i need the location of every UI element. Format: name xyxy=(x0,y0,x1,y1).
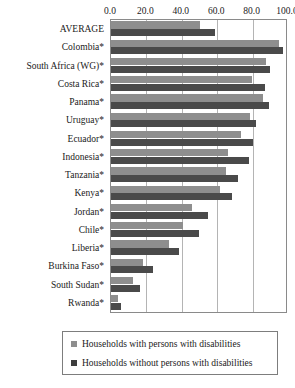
legend-label: Households without persons with disabili… xyxy=(82,357,252,369)
bar xyxy=(111,212,208,219)
bar xyxy=(111,29,215,36)
category-label: Indonesia* xyxy=(62,151,104,162)
x-tick-label: 60.0 xyxy=(208,5,225,18)
bar xyxy=(111,102,269,109)
category-label: Colombia* xyxy=(62,42,104,53)
bar xyxy=(111,230,199,237)
bar xyxy=(111,113,250,120)
bar xyxy=(111,222,183,229)
bar xyxy=(111,84,265,91)
bar xyxy=(111,157,249,164)
bar xyxy=(111,120,256,127)
bar xyxy=(111,58,266,65)
x-tick-label: 100.0 xyxy=(276,5,295,18)
x-tick-label: 80.0 xyxy=(243,5,260,18)
bar xyxy=(111,186,220,193)
bar xyxy=(111,295,118,302)
bar xyxy=(111,167,226,174)
category-label: Rwanda* xyxy=(68,297,104,308)
bar xyxy=(111,277,133,284)
legend-label: Households with persons with disabilitie… xyxy=(82,338,240,350)
category-label: South Sudan* xyxy=(51,279,104,290)
legend-item-with-disabilities: Households with persons with disabilitie… xyxy=(71,337,240,351)
category-label: Costa Rica* xyxy=(58,78,104,89)
legend-item-without-disabilities: Households without persons with disabili… xyxy=(71,356,252,370)
legend-swatch-icon xyxy=(71,360,77,366)
category-label: Jordan* xyxy=(74,206,104,217)
bar xyxy=(111,193,232,200)
category-label: Kenya* xyxy=(74,188,104,199)
grouped-bar-chart: 0.020.040.060.080.0100.0 AVERAGEColombia… xyxy=(0,0,295,388)
category-label: Chile* xyxy=(79,224,104,235)
bar xyxy=(111,175,238,182)
x-tick-label: 40.0 xyxy=(172,5,189,18)
bar xyxy=(111,240,169,247)
bar xyxy=(111,139,253,146)
bar xyxy=(111,204,192,211)
x-tick-label: 20.0 xyxy=(137,5,154,18)
bar xyxy=(111,266,153,273)
chart-legend: Households with persons with disabilitie… xyxy=(62,331,278,375)
bar xyxy=(111,47,283,54)
x-axis-tick-labels: 0.020.040.060.080.0100.0 xyxy=(110,5,287,18)
bar xyxy=(111,149,228,156)
x-tick-label: 0.0 xyxy=(104,5,116,18)
bar xyxy=(111,66,270,73)
y-axis-category-labels: AVERAGEColombia*South Africa (WG)*Costa … xyxy=(0,19,107,313)
category-label: Panama* xyxy=(69,97,104,108)
category-label: Ecuador* xyxy=(68,133,104,144)
category-label: South Africa (WG)* xyxy=(26,60,104,71)
category-label: Burkina Faso* xyxy=(48,261,104,272)
bar xyxy=(111,259,143,266)
bar xyxy=(111,21,200,28)
category-label: Uruguay* xyxy=(66,115,104,126)
bar xyxy=(111,76,252,83)
category-label: AVERAGE xyxy=(60,24,104,35)
category-label: Tanzania* xyxy=(65,170,104,181)
category-label: Liberia* xyxy=(72,243,104,254)
bar xyxy=(111,248,179,255)
bar xyxy=(111,303,121,310)
bar xyxy=(111,94,263,101)
legend-swatch-icon xyxy=(71,341,77,347)
bars-layer xyxy=(111,20,286,312)
bar xyxy=(111,131,241,138)
bar xyxy=(111,40,279,47)
bar xyxy=(111,285,140,292)
